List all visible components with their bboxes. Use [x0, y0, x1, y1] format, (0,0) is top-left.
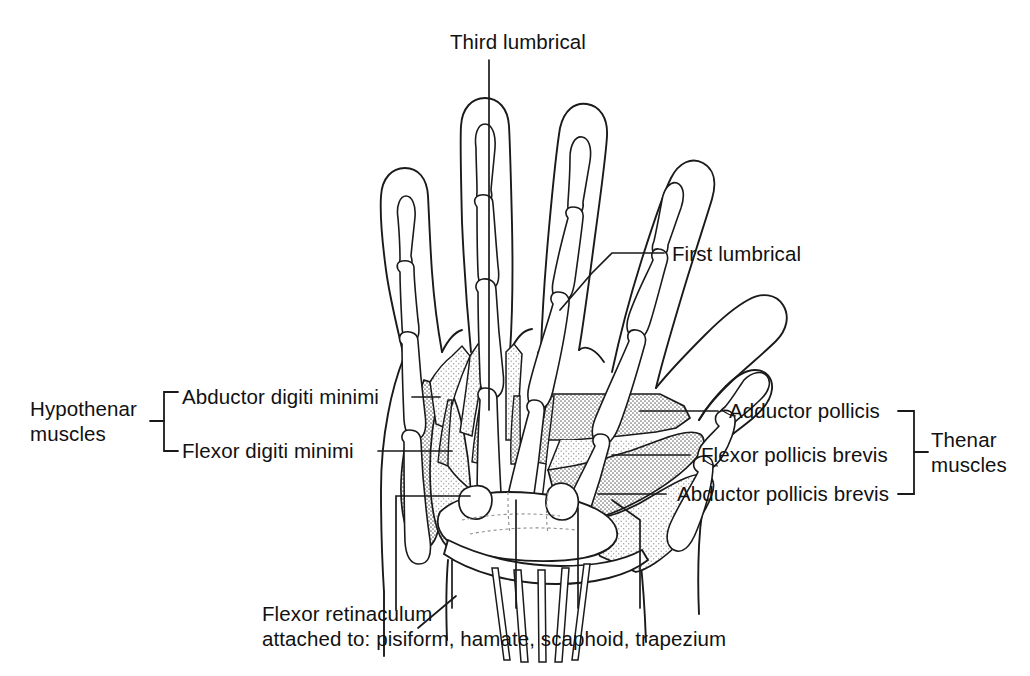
label-thenar-muscles: Thenar muscles — [931, 427, 1007, 477]
label-flexor-retinaculum: Flexor retinaculum — [262, 601, 432, 626]
thenar-bracket — [898, 411, 914, 494]
hand-anatomy-illustration — [0, 0, 1030, 676]
figure-canvas: Third lumbrical First lumbrical Abductor… — [0, 0, 1030, 676]
label-abductor-pollicis-brevis: Abductor pollicis brevis — [677, 481, 889, 506]
label-hypothenar-muscles: Hypothenar muscles — [30, 396, 137, 446]
label-abductor-digiti-minimi: Abductor digiti minimi — [182, 384, 379, 409]
label-adductor-pollicis: Adductor pollicis — [729, 398, 880, 423]
hypothenar-bracket — [164, 392, 178, 451]
label-first-lumbrical: First lumbrical — [672, 241, 801, 266]
label-third-lumbrical: Third lumbrical — [450, 29, 586, 54]
label-flexor-digiti-minimi: Flexor digiti minimi — [182, 438, 354, 463]
label-retinaculum-attachments: attached to: pisiform, hamate, scaphoid,… — [262, 626, 726, 651]
label-flexor-pollicis-brevis: Flexor pollicis brevis — [701, 442, 888, 467]
